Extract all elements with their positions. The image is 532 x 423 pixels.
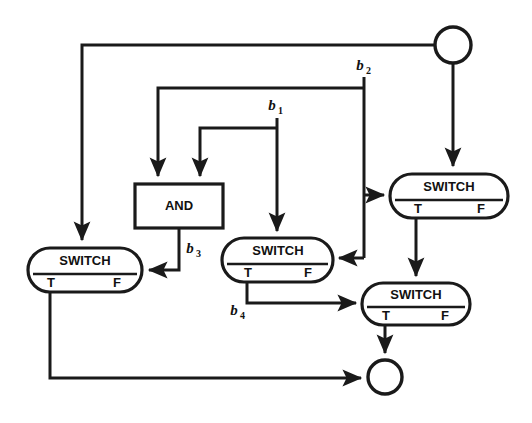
switch-middle-true-port: T: [244, 265, 252, 280]
variable-label-b4-subscript: 4: [240, 310, 245, 321]
node-and-gate[interactable]: AND: [135, 184, 223, 228]
switch-middle-label: SWITCH: [252, 243, 303, 258]
variable-label-b2-base: b: [356, 57, 364, 73]
node-switch-bottom-right[interactable]: SWITCH T F: [362, 283, 470, 325]
switch-top-right-label: SWITCH: [423, 179, 474, 194]
switch-bottom-right-false-port: F: [441, 308, 449, 323]
node-switch-top-right[interactable]: SWITCH T F: [390, 174, 508, 218]
switch-left-true-port: T: [47, 275, 55, 290]
and-gate-label: AND: [165, 198, 193, 213]
sink-circle-shape[interactable]: [368, 360, 402, 394]
switch-bottom-right-true-port: T: [382, 308, 390, 323]
node-switch-left[interactable]: SWITCH T F: [28, 248, 142, 292]
edge-and-to-left-switch: [149, 228, 179, 270]
switch-middle-false-port: F: [304, 265, 312, 280]
edge-b1-to-and-right-input: [200, 128, 277, 176]
flow-diagram: SWITCH T F AND SWITCH T F SWITCH T F: [0, 0, 532, 423]
source-circle-shape[interactable]: [435, 27, 471, 63]
variable-label-b4: b 4: [230, 302, 245, 321]
variable-label-b1-base: b: [268, 97, 276, 113]
edge-layer: [50, 45, 453, 378]
edge-middle-switch-t-to-bottom-right-switch: [247, 282, 356, 303]
variable-label-b3: b 3: [186, 240, 201, 259]
variable-label-b3-base: b: [186, 240, 194, 256]
variable-label-b2-subscript: 2: [366, 65, 371, 76]
node-switch-middle[interactable]: SWITCH T F: [222, 238, 333, 282]
edge-left-switch-t-to-sink: [50, 292, 361, 378]
variable-label-b1-subscript: 1: [278, 105, 283, 116]
diagram-canvas: SWITCH T F AND SWITCH T F SWITCH T F: [0, 0, 532, 423]
switch-left-label: SWITCH: [59, 253, 110, 268]
switch-left-false-port: F: [113, 275, 121, 290]
switch-top-right-false-port: F: [477, 201, 485, 216]
node-source-circle[interactable]: [435, 27, 471, 63]
node-sink-circle[interactable]: [368, 360, 402, 394]
variable-label-b1: b 1: [268, 97, 283, 116]
variable-label-b2: b 2: [356, 57, 371, 76]
switch-bottom-right-label: SWITCH: [390, 287, 441, 302]
variable-label-b4-base: b: [230, 302, 238, 318]
switch-top-right-true-port: T: [414, 201, 422, 216]
variable-label-b3-subscript: 3: [196, 248, 201, 259]
edge-b2-to-and-left-input: [158, 88, 364, 176]
